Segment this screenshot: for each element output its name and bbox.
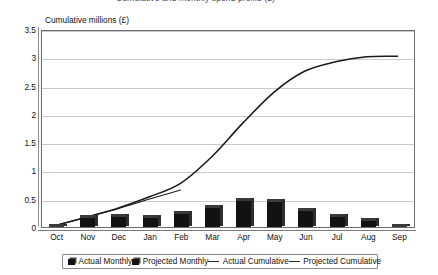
bar-top-face <box>49 224 64 227</box>
bar-side-face <box>345 214 348 226</box>
bar-top-face <box>267 199 282 202</box>
legend-item[interactable]: Actual Cumulative <box>208 257 288 266</box>
bar-side-face <box>95 215 98 226</box>
legend-label: Projected Cumulative <box>303 257 381 266</box>
line-series <box>57 56 398 225</box>
bar <box>361 221 376 228</box>
bar-side-face <box>64 224 67 226</box>
chart-container: Cumulative and monthly spend profile (£)… <box>0 0 438 275</box>
legend-label: Actual Cumulative <box>223 257 289 266</box>
bar <box>174 214 189 228</box>
legend-item[interactable]: Actual Monthly <box>68 257 132 266</box>
bar <box>80 218 95 228</box>
legend-item[interactable]: Projected Cumulative <box>289 257 381 266</box>
legend-label: Actual Monthly <box>79 257 133 266</box>
bar <box>111 217 126 228</box>
y-axis-tick-label: 1.5 <box>2 138 36 148</box>
bar-top-face <box>143 215 158 218</box>
bar-top-face <box>111 214 126 217</box>
bar <box>49 227 64 228</box>
bar <box>205 208 220 229</box>
y-axis-tick-label: 1 <box>2 166 36 176</box>
bar-top-face <box>330 214 345 217</box>
y-axis-tick-label: 2 <box>2 110 36 120</box>
cumulative-lines <box>42 31 414 227</box>
bar-side-face <box>220 205 223 227</box>
legend-item[interactable]: Projected Monthly <box>132 257 208 266</box>
bar <box>330 217 345 228</box>
bar-side-face <box>158 215 161 226</box>
y-axis-title: Cumulative millions (£) <box>45 15 129 25</box>
bar-top-face <box>361 218 376 221</box>
bar-top-face <box>392 224 407 227</box>
bar-side-face <box>251 198 254 226</box>
bar-side-face <box>282 199 285 226</box>
line-swatch-icon <box>208 261 219 262</box>
bar-top-face <box>174 211 189 214</box>
bar-side-face <box>407 224 410 226</box>
bar <box>392 227 407 228</box>
y-axis-tick-label: 0 <box>2 223 36 233</box>
y-axis-tick-label: 2.5 <box>2 82 36 92</box>
cropped-title-strip: Cumulative and monthly spend profile (£) <box>0 0 438 11</box>
line-swatch-icon <box>289 261 300 262</box>
x-axis-tick-label: Sep <box>379 232 419 242</box>
plot-area <box>41 30 415 228</box>
bar-top-face <box>236 198 251 201</box>
bar-side-face <box>313 208 316 226</box>
bar <box>267 202 282 228</box>
chart-title: Cumulative and monthly spend profile (£) <box>116 0 275 3</box>
bar <box>143 218 158 228</box>
bar-top-face <box>80 215 95 218</box>
y-axis-tick-label: 3 <box>2 53 36 63</box>
legend-label: Projected Monthly <box>143 257 209 266</box>
bar <box>298 211 313 228</box>
bar-top-face <box>298 208 313 211</box>
y-axis-tick-label: 0.5 <box>2 195 36 205</box>
bar-side-face <box>126 214 129 226</box>
bar <box>236 201 251 228</box>
bar-side-face <box>376 218 379 226</box>
y-axis-tick-label: 3.5 <box>2 25 36 35</box>
bar-top-face <box>205 205 220 208</box>
bar-swatch-icon <box>68 259 75 265</box>
y-axis-tick-labels: 00.511.522.533.5 <box>0 30 36 228</box>
chart-legend: Actual MonthlyProjected MonthlyActual Cu… <box>62 254 378 269</box>
bar-side-face <box>189 211 192 226</box>
bar-swatch-icon <box>132 259 139 265</box>
